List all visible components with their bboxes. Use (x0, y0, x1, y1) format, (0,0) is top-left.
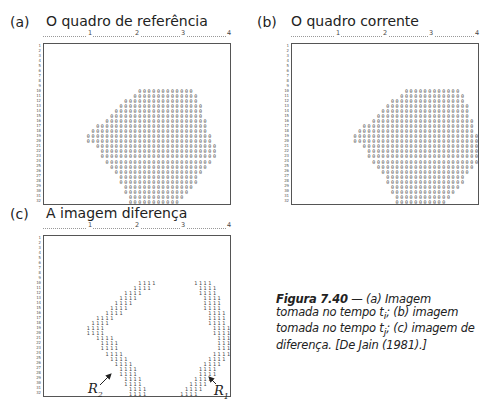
figure-caption: Figura 7.40 — (a) Imagem tomada no tempo… (276, 293, 476, 352)
region-label-r2: R2 (88, 381, 103, 399)
region-label-r1: R1 (214, 383, 229, 401)
